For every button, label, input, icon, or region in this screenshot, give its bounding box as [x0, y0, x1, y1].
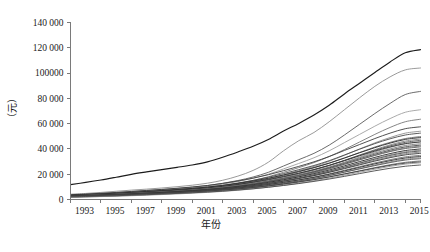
- x-tick-label: 1999: [166, 206, 185, 216]
- x-tick-label: 2015: [410, 206, 429, 216]
- y-tick-label: 140 000: [33, 18, 64, 28]
- y-tick-label: 40 000: [37, 144, 63, 154]
- y-tick-label: 60 000: [37, 119, 63, 129]
- series-line: [71, 68, 421, 194]
- y-tick-label: 80 000: [37, 94, 63, 104]
- x-axis-title: 年份: [201, 218, 221, 230]
- y-axis-title: （元）: [7, 93, 18, 123]
- x-axis-ticks: 1993199519971999200120032005200720092011…: [71, 200, 430, 216]
- axis-layer: [71, 23, 421, 200]
- x-tick-label: 1995: [105, 206, 124, 216]
- series-line: [71, 158, 421, 198]
- x-tick-label: 2007: [288, 206, 307, 216]
- series-layer: [71, 50, 421, 198]
- y-axis-ticks: 020 00040 00060 00080 000100000120 00014…: [33, 18, 71, 205]
- x-tick-label: 2009: [318, 206, 337, 216]
- x-tick-label: 2005: [258, 206, 277, 216]
- x-tick-label: 1997: [136, 206, 155, 216]
- x-tick-label: 1993: [75, 206, 94, 216]
- chart-canvas: 020 00040 00060 00080 000100000120 00014…: [0, 0, 430, 252]
- x-tick-label: 2011: [349, 206, 368, 216]
- line-chart: 020 00040 00060 00080 000100000120 00014…: [0, 0, 430, 252]
- x-tick-label: 2013: [379, 206, 398, 216]
- x-tick-label: 2003: [227, 206, 246, 216]
- y-tick-label: 0: [59, 195, 64, 205]
- y-tick-label: 120 000: [33, 43, 64, 53]
- y-tick-label: 100000: [35, 68, 64, 78]
- x-tick-label: 2001: [197, 206, 216, 216]
- y-tick-label: 20 000: [37, 170, 63, 180]
